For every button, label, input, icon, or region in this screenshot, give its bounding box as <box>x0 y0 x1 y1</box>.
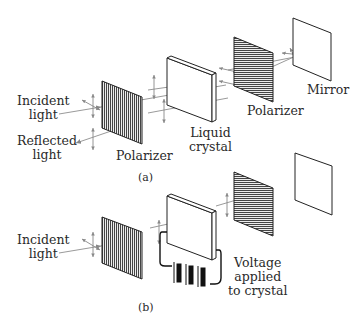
caption-a: (a) <box>138 171 153 185</box>
caption-b: (b) <box>138 301 154 315</box>
label-liquid-crystal: Liquid crystal <box>189 126 232 154</box>
label-mirror: Mirror <box>307 83 349 97</box>
label-voltage-applied: Voltage applied to crystal <box>228 256 287 298</box>
panel-b <box>59 153 332 287</box>
front-polarizer-b <box>102 217 142 279</box>
label-back-polarizer-a: Polarizer <box>247 104 304 118</box>
label-front-polarizer-a: Polarizer <box>116 149 173 163</box>
label-incident-light-b: Incident light <box>17 233 69 261</box>
mirror-b <box>295 153 332 215</box>
label-reflected-light: Reflected light <box>17 134 77 162</box>
front-polarizer-a <box>102 81 142 144</box>
liquid-crystal-b <box>167 194 216 260</box>
lcd-diagram: Incident light Reflected light Polarizer… <box>0 0 355 322</box>
battery-icon <box>174 262 205 287</box>
back-polarizer-b <box>234 172 273 236</box>
liquid-crystal-a <box>167 56 216 122</box>
label-incident-light-a: Incident light <box>17 94 69 122</box>
mirror-a <box>293 18 331 81</box>
back-polarizer-a <box>234 37 273 102</box>
